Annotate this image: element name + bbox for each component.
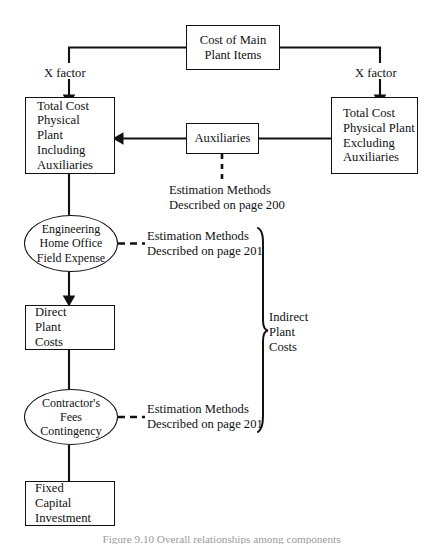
node-line: Plant	[35, 320, 114, 335]
label-x-factor-left: X factor	[44, 66, 86, 81]
annotation-contractor-methods: Estimation Methods Described on page 201	[147, 402, 263, 432]
label-line: Plant	[269, 325, 308, 340]
node-line: Plant	[37, 128, 114, 143]
node-line: Total Cost	[37, 99, 114, 114]
node-line: Physical Plant	[343, 121, 417, 136]
node-line: Plant Items	[204, 48, 261, 63]
node-line: Costs	[35, 335, 114, 350]
node-line: Capital	[35, 496, 114, 511]
annotation-line: Estimation Methods	[147, 229, 263, 244]
node-line: Auxiliaries	[195, 131, 251, 146]
node-line: Home Office	[40, 236, 103, 250]
node-line: Auxiliaries	[37, 158, 114, 173]
node-line: Fees	[60, 410, 82, 424]
node-line: Fixed	[35, 481, 114, 496]
figure-canvas: Cost of Main Plant Items Total Cost Phys…	[0, 0, 443, 544]
node-line: Excluding	[343, 136, 417, 151]
node-line: Total Cost	[343, 106, 417, 121]
label-line: Costs	[269, 340, 308, 355]
label-indirect-plant-costs: Indirect Plant Costs	[269, 310, 308, 355]
node-line: Field Expense	[37, 251, 105, 265]
label-x-factor-right: X factor	[355, 66, 397, 81]
node-line: Physical	[37, 113, 114, 128]
node-contractors-fees-contingency: Contractor's Fees Contingency	[24, 389, 118, 445]
connector-top-left	[69, 48, 186, 64]
node-direct-plant-costs: Direct Plant Costs	[25, 305, 115, 350]
annotation-line: Described on page 200	[169, 198, 285, 213]
label-line: Indirect	[269, 310, 308, 325]
annotation-auxiliaries-methods: Estimation Methods Described on page 200	[169, 183, 285, 213]
node-total-cost-including-auxiliaries: Total Cost Physical Plant Including Auxi…	[25, 97, 115, 174]
annotation-line: Described on page 201	[147, 244, 263, 259]
connector-top-right	[280, 48, 380, 64]
node-line: Cost of Main	[200, 33, 266, 48]
node-fixed-capital-investment: Fixed Capital Investment	[25, 481, 115, 526]
node-line: Contractor's	[42, 396, 100, 410]
node-line: Auxiliaries	[343, 150, 417, 165]
node-total-cost-excluding-auxiliaries: Total Cost Physical Plant Excluding Auxi…	[331, 97, 418, 174]
node-cost-of-main-plant-items: Cost of Main Plant Items	[186, 25, 280, 70]
node-auxiliaries: Auxiliaries	[186, 123, 259, 154]
node-engineering-home-office-field-expense: Engineering Home Office Field Expense	[24, 215, 118, 272]
annotation-engineering-methods: Estimation Methods Described on page 201	[147, 229, 263, 259]
node-line: Including	[37, 143, 114, 158]
annotation-line: Estimation Methods	[169, 183, 285, 198]
annotation-line: Estimation Methods	[147, 402, 263, 417]
connector-layer	[0, 0, 443, 544]
figure-caption: Figure 9.10 Overall relationships among …	[0, 533, 443, 544]
annotation-line: Described on page 201	[147, 417, 263, 432]
node-line: Direct	[35, 305, 114, 320]
node-line: Contingency	[40, 424, 101, 438]
node-line: Engineering	[42, 222, 101, 236]
node-line: Investment	[35, 511, 114, 526]
